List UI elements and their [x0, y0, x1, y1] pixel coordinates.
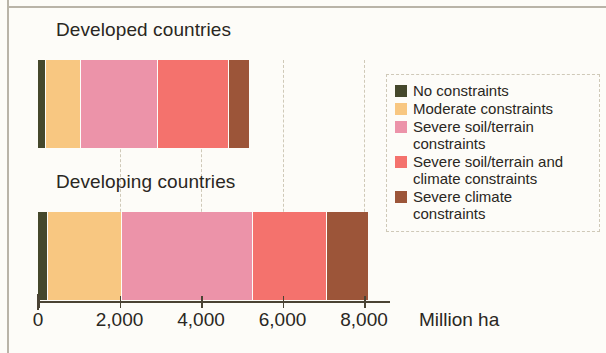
legend-swatch-icon — [395, 85, 407, 97]
legend-item[interactable]: Severe soil/terrain constraints — [395, 118, 595, 152]
bar-segment — [327, 212, 368, 300]
x-axis-tick-label: 8,000 — [340, 309, 388, 331]
legend-item-label: Severe soil/terrain constraints — [413, 118, 534, 152]
legend-item[interactable]: No constraints — [395, 82, 595, 99]
bar-segment — [38, 60, 46, 148]
legend-swatch-icon — [395, 191, 407, 203]
legend-item[interactable]: Severe soil/terrain and climate constrai… — [395, 153, 595, 187]
x-axis-tick-label: 2,000 — [96, 309, 144, 331]
x-axis-tick — [38, 296, 40, 308]
x-axis-tick-label: 0 — [33, 309, 44, 331]
legend-item-label: Severe soil/terrain and climate constrai… — [413, 153, 563, 187]
bar-segment — [158, 60, 229, 148]
legend-swatch-icon — [395, 103, 407, 115]
x-axis-tick — [364, 296, 366, 308]
bar-segment — [81, 60, 158, 148]
stacked-bar-chart: Developed countries Developing countries… — [0, 0, 606, 353]
x-axis-tick — [120, 296, 122, 308]
x-axis-line — [38, 301, 390, 303]
group-label-developing-countries: Developing countries — [56, 171, 235, 193]
bar-segment — [253, 212, 327, 300]
bar-segment — [229, 60, 249, 148]
legend-item-label: Moderate constraints — [413, 100, 553, 117]
legend-item[interactable]: Moderate constraints — [395, 100, 595, 117]
x-axis-tick — [283, 296, 285, 308]
group-label-developed-countries: Developed countries — [56, 19, 231, 41]
bar-segment — [122, 212, 253, 300]
bar-segment — [46, 60, 81, 148]
legend-swatch-icon — [395, 121, 407, 133]
bar-segment — [48, 212, 122, 300]
chart-legend: No constraintsModerate constraintsSevere… — [386, 74, 600, 232]
bar-segment — [38, 212, 48, 300]
x-axis-tick-label: 6,000 — [259, 309, 307, 331]
legend-item-label: No constraints — [413, 82, 509, 99]
x-axis-unit-label: Million ha — [419, 309, 499, 331]
bar-developed-countries — [38, 60, 249, 148]
x-axis-tick-label: 4,000 — [177, 309, 225, 331]
chart-page: Developed countries Developing countries… — [0, 0, 606, 353]
legend-item-label: Severe climate constraints — [413, 188, 512, 222]
x-axis-tick — [201, 296, 203, 308]
legend-swatch-icon — [395, 156, 407, 168]
bar-developing-countries — [38, 212, 368, 300]
legend-item[interactable]: Severe climate constraints — [395, 188, 595, 222]
